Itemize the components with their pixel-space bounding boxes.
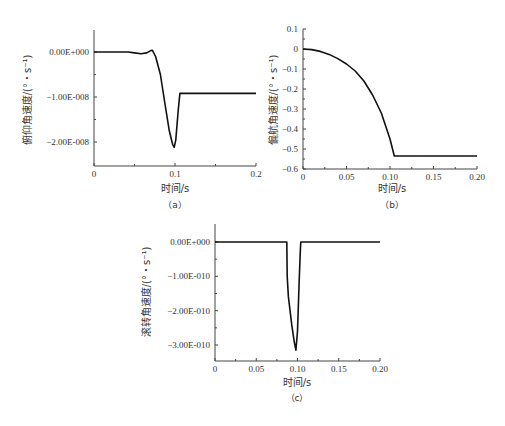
xtick-label: 0.05	[248, 364, 264, 374]
chart-c-roll-rate: 00.050.100.150.20 0.00E+000−1.00E-010−2.…	[140, 224, 388, 403]
ytick-label: −1.00E-008	[46, 92, 89, 102]
chart-b-caption: （b）	[380, 200, 404, 210]
xtick-label: 0	[213, 364, 218, 374]
xtick-label: 0.15	[426, 172, 442, 182]
chart-b-curve	[303, 49, 477, 156]
xtick-label: 0	[301, 172, 306, 182]
ytick-label: −0.6	[282, 164, 299, 174]
ytick-label: 0.00E+000	[49, 47, 89, 57]
chart-c-ylabel: 滚转角速度/(°・s⁻¹)	[140, 247, 152, 338]
figure-canvas: 00.10.2 0.00E+000−1.00E-008−2.00E-008 时间…	[0, 0, 505, 426]
chart-b-ticks	[303, 29, 477, 169]
ytick-label: −2.00E-008	[46, 137, 89, 147]
chart-c-ytick-labels: 0.00E+000−1.00E-010−2.00E-010−3.00E-010	[167, 237, 210, 350]
xtick-label: 0.20	[469, 172, 485, 182]
chart-c-xtick-labels: 00.050.100.150.20	[213, 364, 389, 374]
ytick-label: 0.1	[287, 24, 298, 34]
chart-a-pitch-rate: 00.10.2 0.00E+000−1.00E-008−2.00E-008 时间…	[21, 30, 262, 210]
xtick-label: 0	[92, 169, 97, 179]
xtick-label: 0.20	[372, 364, 388, 374]
chart-c-curve	[215, 242, 380, 350]
chart-a-ylabel: 俯仰角速度/(°・s⁻¹)	[21, 55, 33, 146]
xtick-label: 0.10	[290, 364, 306, 374]
ytick-label: −1.00E-010	[167, 271, 210, 281]
chart-b-xtick-labels: 00.050.100.150.20	[301, 172, 486, 182]
chart-c-xlabel: 时间/s	[283, 376, 312, 388]
chart-a-ytick-labels: 0.00E+000−1.00E-008−2.00E-008	[46, 47, 89, 147]
ytick-label: 0	[294, 44, 299, 54]
xtick-label: 0.15	[331, 364, 347, 374]
xtick-label: 0.10	[382, 172, 398, 182]
chart-a-xtick-labels: 00.10.2	[92, 169, 262, 179]
ytick-label: −0.4	[282, 124, 299, 134]
ytick-label: −3.00E-010	[167, 340, 210, 350]
ytick-label: −0.1	[282, 64, 298, 74]
chart-b-ylabel: 偏航角速度/(°・s⁻¹)	[267, 55, 279, 146]
chart-a-ticks	[94, 52, 256, 166]
chart-b-ytick-labels: 0.10−0.1−0.2−0.3−0.4−0.5−0.6	[282, 24, 299, 174]
chart-a-xlabel: 时间/s	[161, 182, 190, 194]
chart-a-curve	[94, 50, 256, 147]
chart-c-ticks	[215, 242, 380, 361]
chart-b-xlabel: 时间/s	[378, 182, 407, 194]
ytick-label: −0.3	[282, 104, 299, 114]
chart-b-axes	[303, 29, 477, 169]
chart-b-yaw-rate: 00.050.100.150.20 0.10−0.1−0.2−0.3−0.4−0…	[267, 24, 485, 210]
ytick-label: 0.00E+000	[170, 237, 210, 247]
ytick-label: −0.2	[282, 84, 298, 94]
ytick-label: −2.00E-010	[167, 306, 210, 316]
xtick-label: 0.2	[250, 169, 261, 179]
chart-c-caption: （c）	[286, 393, 309, 403]
xtick-label: 0.05	[339, 172, 355, 182]
ytick-label: −0.5	[282, 144, 299, 154]
xtick-label: 0.1	[169, 169, 180, 179]
chart-a-caption: （a）	[163, 200, 187, 210]
